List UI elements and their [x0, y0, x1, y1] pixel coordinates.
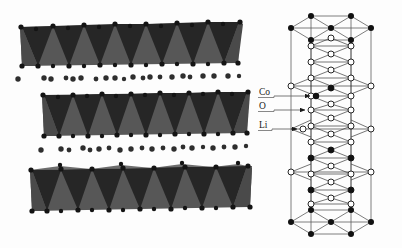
vertex-atom — [168, 206, 173, 211]
cobalt-atom — [348, 187, 354, 193]
lithium-ion — [107, 146, 112, 151]
cobalt-atom — [308, 37, 314, 43]
lithium-ion — [141, 76, 146, 81]
oxygen-atom — [348, 93, 354, 99]
lithium-ion — [244, 144, 248, 148]
oxygen-atom — [308, 171, 314, 177]
crystal-structure-figure: Co O Li — [0, 0, 402, 248]
oxygen-atom — [308, 123, 314, 129]
vertex-atom — [34, 27, 38, 31]
lithium-ion — [200, 73, 205, 78]
lithium-ion — [88, 148, 93, 153]
vertex-atom — [245, 89, 250, 94]
vertex-atom — [112, 21, 117, 26]
vertex-atom — [186, 90, 191, 95]
label-co: Co — [259, 87, 270, 97]
vertex-atom — [99, 91, 104, 96]
vertex-atom — [201, 92, 205, 96]
lithium-atom — [368, 169, 374, 175]
vertex-atom — [237, 19, 242, 24]
cobalt-atom — [348, 231, 354, 237]
vertex-atom — [230, 130, 235, 135]
label-li: Li — [259, 120, 268, 130]
oxygen-atom — [348, 107, 354, 113]
vertex-atom — [29, 208, 34, 213]
vertex-atom — [59, 209, 63, 213]
vertex-atom — [143, 132, 148, 137]
vertex-atom — [35, 63, 40, 68]
oxygen-atom — [348, 75, 354, 81]
vertex-atom — [129, 133, 133, 137]
lithium-ion — [70, 76, 75, 81]
vertex-atom — [206, 62, 210, 66]
octahedra-layer-top — [18, 19, 243, 68]
vertex-atom — [158, 133, 162, 137]
lithium-ion — [169, 74, 174, 79]
lithium-ion — [158, 75, 163, 80]
lithium-atom — [368, 126, 374, 132]
vertex-atom — [81, 22, 86, 27]
vertex-atom — [18, 24, 23, 29]
cobalt-atom — [348, 155, 354, 161]
vertex-atom — [199, 205, 204, 210]
cobalt-atom — [308, 231, 314, 237]
lithium-ion — [210, 145, 215, 150]
lithium-ion — [67, 148, 72, 153]
lithium-ion — [117, 147, 122, 152]
lithium-ion — [201, 145, 205, 149]
oxygen-atom — [348, 171, 354, 177]
vertex-atom — [56, 95, 60, 99]
vertex-atom — [113, 63, 117, 67]
cobalt-atom — [328, 25, 334, 31]
cobalt-atom-labeled — [313, 93, 319, 99]
vertex-atom — [205, 19, 210, 24]
lithium-atom — [300, 126, 306, 132]
lithium-atom — [328, 163, 334, 169]
lithium-ion — [147, 74, 152, 79]
vertex-atom — [71, 134, 75, 138]
lithium-ion — [78, 75, 83, 80]
lithium-ion — [15, 76, 20, 81]
vertex-atom — [100, 134, 104, 138]
vertex-atom — [50, 23, 55, 28]
lithium-ion — [181, 145, 186, 150]
lithium-ion — [112, 75, 117, 80]
vertex-atom — [70, 92, 75, 97]
figure-canvas: Co O Li — [0, 0, 402, 248]
lithium-ion — [58, 146, 63, 151]
vertex-atom — [190, 61, 195, 66]
lithium-ion — [38, 147, 43, 152]
lithium-ion — [64, 76, 69, 81]
cobalt-atom — [348, 37, 354, 43]
oxygen-atom — [308, 201, 314, 207]
vertex-atom — [121, 208, 125, 212]
lithium-ion — [41, 75, 46, 80]
vertex-atom — [28, 167, 33, 172]
lithium-atom — [368, 83, 374, 89]
vertex-atom — [230, 92, 234, 96]
lithium-ion — [188, 75, 193, 80]
vertex-atom — [174, 20, 179, 25]
vertex-atom — [159, 61, 164, 66]
oxygen-atom — [328, 101, 334, 107]
vertex-atom — [221, 22, 225, 26]
vertex-atom — [183, 206, 187, 210]
oxygen-atom — [308, 43, 314, 49]
lithium-ion — [232, 144, 237, 149]
vertex-atom — [114, 94, 118, 98]
lithium-ion — [149, 146, 154, 151]
cobalt-atom — [348, 207, 354, 213]
oxygen-atom — [328, 195, 334, 201]
layer-middle-faces — [42, 92, 250, 136]
vertex-atom — [75, 207, 80, 212]
lithium-ion — [211, 73, 216, 78]
oxygen-atom — [328, 131, 334, 137]
lithium-ion — [122, 77, 126, 81]
lithium-ion — [237, 74, 241, 78]
polyhedral-model-panel — [15, 19, 252, 213]
vertex-atom — [44, 208, 49, 213]
oxygen-atom — [348, 59, 354, 65]
lithium-atom — [288, 169, 294, 175]
cobalt-atom — [328, 85, 334, 91]
oxygen-atom — [308, 75, 314, 81]
